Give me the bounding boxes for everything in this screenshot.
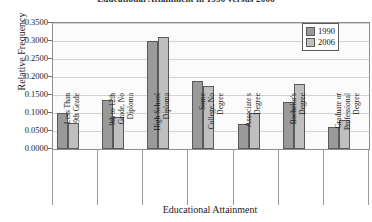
x-axis-separator <box>368 149 369 205</box>
x-axis-separator <box>97 149 98 205</box>
legend-item-1990: 1990 <box>306 26 335 37</box>
y-axis-tick-mark <box>48 58 52 59</box>
y-axis-tick-label: 0.0500 <box>6 126 48 135</box>
x-axis-separator <box>323 149 324 205</box>
legend-item-2006: 2006 <box>306 37 335 48</box>
y-axis-tick-mark <box>48 76 52 77</box>
y-axis-tick-label: 0.1500 <box>6 90 48 99</box>
x-axis-category-2: High SchoolDiploma <box>142 149 187 205</box>
y-axis-tick-label: 0.3500 <box>6 18 48 27</box>
legend-swatch-icon-2006 <box>306 38 315 47</box>
y-axis-tick-label: 0.3000 <box>6 36 48 45</box>
y-axis-tick-mark <box>48 40 52 41</box>
x-axis-title: Educational Attainment <box>52 204 368 215</box>
x-axis-tick-labels: Less Than9th Grade9th to 12thGrade, NoDi… <box>52 149 368 205</box>
x-axis-tick-label: Degree <box>216 93 229 149</box>
x-axis-tick-label: Diploma <box>162 93 175 149</box>
chart-legend: 1990 2006 <box>302 23 339 51</box>
x-axis-tick-label: Diploma <box>126 93 139 149</box>
y-axis-tick-mark <box>48 148 52 149</box>
y-axis-tick-mark <box>48 22 52 23</box>
legend-label-1990: 1990 <box>318 27 335 36</box>
legend-label-2006: 2006 <box>318 38 335 47</box>
bar-chart: Educational Attainment in 1990 versus 20… <box>0 0 372 222</box>
x-axis-category-0: Less Than9th Grade <box>52 149 97 205</box>
y-axis-tick-label: 0.2000 <box>6 72 48 81</box>
x-axis-tick-label: 9th Grade <box>72 93 85 149</box>
y-axis-tick-mark <box>48 130 52 131</box>
x-axis-tick-label: Degree <box>253 93 266 149</box>
x-axis-tick-label: Degree <box>352 93 365 149</box>
x-axis-category-1: 9th to 12thGrade, NoDiploma <box>97 149 142 205</box>
y-axis-tick-mark <box>48 112 52 113</box>
x-axis-separator <box>142 149 143 205</box>
x-axis-category-3: SomeCollege, NoDegree <box>187 149 232 205</box>
x-axis-separator <box>278 149 279 205</box>
y-axis-tick-label: 0.0000 <box>6 144 48 153</box>
x-axis-separator <box>233 149 234 205</box>
y-axis-tick-labels: 0.35000.30000.25000.20000.15000.10000.05… <box>6 0 48 222</box>
legend-swatch-icon-1990 <box>306 27 315 36</box>
x-axis-separator <box>187 149 188 205</box>
x-axis-category-6: Graduate orProfessionalDegree <box>323 149 368 205</box>
x-axis-tick-label: Degree <box>298 93 311 149</box>
x-axis-separator <box>52 149 53 205</box>
y-axis-tick-label: 0.2500 <box>6 54 48 63</box>
x-axis-category-4: Associate sDegree <box>233 149 278 205</box>
y-axis-tick-label: 0.1000 <box>6 108 48 117</box>
chart-title: Educational Attainment in 1990 versus 20… <box>0 0 372 2</box>
x-axis-category-5: Bachelor'sDegree <box>278 149 323 205</box>
y-axis-tick-mark <box>48 94 52 95</box>
